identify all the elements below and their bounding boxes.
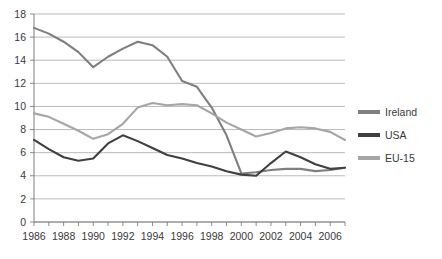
legend-label: Ireland bbox=[385, 106, 417, 118]
x-axis-tick-label: 2002 bbox=[259, 230, 283, 242]
y-axis-tick-label: 14 bbox=[14, 54, 26, 66]
y-axis-tick-label: 18 bbox=[14, 8, 26, 20]
x-axis-tick-label: 2004 bbox=[289, 230, 313, 242]
x-axis-tick-label: 1988 bbox=[52, 230, 76, 242]
x-axis-tick-label: 1996 bbox=[170, 230, 194, 242]
x-axis-tick-label: 1992 bbox=[111, 230, 135, 242]
y-axis-tick-label: 10 bbox=[14, 100, 26, 112]
y-axis-tick-label: 12 bbox=[14, 77, 26, 89]
y-axis-tick-label: 8 bbox=[20, 123, 26, 135]
legend-item[interactable]: Ireland bbox=[358, 100, 442, 123]
line-chart: 0246810121416181986198819901992199419961… bbox=[0, 0, 442, 259]
series-line-eu-15 bbox=[34, 103, 345, 140]
y-axis-tick-label: 16 bbox=[14, 31, 26, 43]
y-axis-tick-label: 6 bbox=[20, 146, 26, 158]
y-axis-tick-label: 2 bbox=[20, 193, 26, 205]
x-axis-tick-label: 1998 bbox=[200, 230, 224, 242]
legend-item[interactable]: USA bbox=[358, 123, 442, 146]
legend-swatch-icon bbox=[358, 156, 380, 160]
series-line-ireland bbox=[34, 28, 345, 174]
x-axis-tick-label: 1990 bbox=[82, 230, 106, 242]
plot-area: 0246810121416181986198819901992199419961… bbox=[0, 0, 360, 259]
y-axis-tick-label: 4 bbox=[20, 169, 26, 181]
legend-label: USA bbox=[385, 129, 407, 141]
legend-item[interactable]: EU-15 bbox=[358, 146, 442, 169]
legend-swatch-icon bbox=[358, 133, 380, 137]
x-axis-tick-label: 1994 bbox=[141, 230, 165, 242]
x-axis-tick-label: 1986 bbox=[22, 230, 46, 242]
legend-label: EU-15 bbox=[385, 152, 415, 164]
x-axis-tick-label: 2006 bbox=[319, 230, 343, 242]
chart-legend: IrelandUSAEU-15 bbox=[358, 100, 442, 169]
x-axis-tick-label: 2000 bbox=[230, 230, 254, 242]
y-axis-tick-label: 0 bbox=[20, 216, 26, 228]
legend-swatch-icon bbox=[358, 110, 380, 114]
